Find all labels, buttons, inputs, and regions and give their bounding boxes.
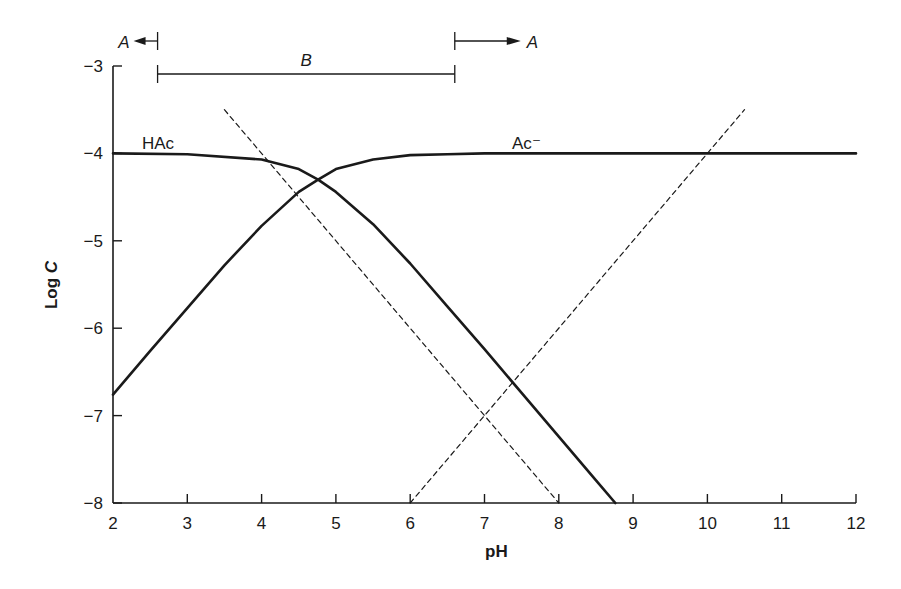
y-tick-label: −8 — [84, 494, 103, 513]
x-tick-label: 2 — [108, 514, 117, 533]
x-tick-label: 7 — [480, 514, 489, 533]
y-tick-label: −5 — [84, 232, 103, 251]
y-axis-title: Log C — [42, 260, 61, 309]
x-tick-label: 3 — [183, 514, 192, 533]
y-axis-title-c: C — [42, 260, 61, 273]
range-a-left-label: A — [117, 33, 129, 52]
axis-ticks: 23456789101112−3−4−5−6−7−8 — [84, 57, 866, 533]
x-tick-label: 8 — [554, 514, 563, 533]
x-tick-label: 6 — [405, 514, 414, 533]
x-tick-label: 11 — [773, 514, 791, 533]
series-label-ac: Ac⁻ — [512, 134, 541, 153]
x-tick-label: 5 — [331, 514, 340, 533]
arrow-right-icon — [507, 37, 521, 45]
series-ac-line — [113, 153, 856, 394]
series-h-line — [224, 110, 558, 503]
axes — [113, 66, 856, 503]
arrow-left-icon — [134, 37, 146, 45]
x-tick-label: 10 — [698, 514, 717, 533]
range-a-right-label: A — [526, 33, 538, 52]
x-tick-label: 9 — [628, 514, 637, 533]
x-axis-title: pH — [485, 542, 508, 561]
y-tick-label: −6 — [84, 319, 103, 338]
x-tick-label: 12 — [847, 514, 866, 533]
y-tick-label: −7 — [84, 407, 103, 426]
chart: 23456789101112−3−4−5−6−7−8 ABA HAc Ac⁻ p… — [0, 0, 901, 589]
range-b-label: B — [301, 51, 312, 70]
y-axis-title-log: Log — [42, 273, 61, 309]
series-oh-line — [410, 110, 744, 503]
series-lines — [113, 110, 856, 503]
y-tick-label: −4 — [84, 144, 103, 163]
x-tick-label: 4 — [257, 514, 266, 533]
range-annotations: ABA — [117, 32, 538, 83]
series-hac-line — [113, 153, 615, 503]
y-tick-label: −3 — [84, 57, 103, 76]
series-label-hac: HAc — [142, 134, 175, 153]
